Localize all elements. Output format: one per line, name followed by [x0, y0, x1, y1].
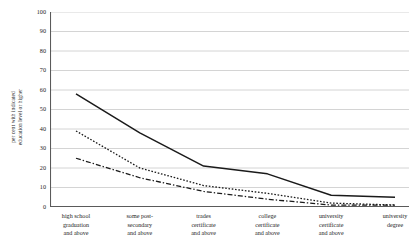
x-axis-tick-label-line: certificate	[173, 221, 235, 230]
y-axis-tick-label: 20	[22, 165, 46, 171]
plot-area	[50, 12, 409, 207]
x-axis-tick-label: tradescertificateand above	[173, 212, 235, 238]
x-axis-tick-label-line: college	[236, 212, 298, 221]
x-axis-tick-label-line: high school	[45, 212, 107, 221]
x-axis-tick-label-line: university	[364, 212, 409, 221]
x-axis-tick-label-line: certificate	[300, 221, 362, 230]
y-axis-tick-labels: 0102030405060708090100	[20, 0, 46, 251]
y-axis-tick-label: 0	[22, 204, 46, 210]
y-axis-tick-label: 80	[22, 48, 46, 54]
gridlines	[50, 12, 409, 207]
data-series-group	[76, 94, 395, 205]
x-axis-tick-label-line: and above	[173, 229, 235, 238]
x-axis-tick-label-line: and above	[45, 229, 107, 238]
x-axis-tick-label-line: and above	[109, 229, 171, 238]
y-axis-tick-label: 40	[22, 126, 46, 132]
x-axis-tick-label: high schoolgraduationand above	[45, 212, 107, 238]
x-axis-tick-label-line: secondary	[109, 221, 171, 230]
y-axis-tick-label: 70	[22, 67, 46, 73]
x-axis-tick-labels: high schoolgraduationand abovesome post-…	[50, 212, 409, 251]
line-chart: per cent with indicated education level …	[0, 0, 409, 251]
series-line-dash-dot-series	[76, 158, 395, 205]
x-axis-tick-label-line: certificate	[236, 221, 298, 230]
y-axis-tick-label: 30	[22, 145, 46, 151]
y-axis-tick-label: 90	[22, 28, 46, 34]
y-axis-tick-label: 50	[22, 106, 46, 112]
x-axis-tick-label: some post-secondaryand above	[109, 212, 171, 238]
y-axis-title-line-1: per cent with indicated	[10, 47, 17, 187]
x-axis-tick-label-line: degree	[364, 221, 409, 230]
x-axis-tick-label-line: some post-	[109, 212, 171, 221]
x-axis-tick-label: collegecertificateand above	[236, 212, 298, 238]
x-axis-tick-label-line: and above	[300, 229, 362, 238]
x-axis-tick-label-line: graduation	[45, 221, 107, 230]
plot-svg	[50, 12, 409, 207]
x-axis-tick-label: universitycertificateand above	[300, 212, 362, 238]
y-axis-tick-label: 60	[22, 87, 46, 93]
y-axis-tick-label: 100	[22, 9, 46, 15]
x-axis-tick-label-line: university	[300, 212, 362, 221]
y-axis-tick-label: 10	[22, 184, 46, 190]
x-axis-tick-label-line: and above	[236, 229, 298, 238]
x-axis-tick-label: universitydegree	[364, 212, 409, 229]
x-axis-tick-label-line: trades	[173, 212, 235, 221]
